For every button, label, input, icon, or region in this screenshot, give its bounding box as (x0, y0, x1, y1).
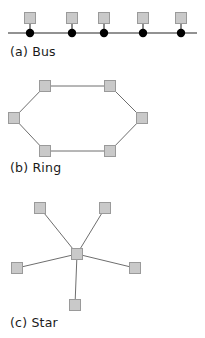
bus-node-1 (25, 13, 36, 24)
bus-node-2 (67, 13, 78, 24)
bus-node-3 (99, 13, 110, 24)
ring-topology-panel (9, 81, 148, 157)
caption-star: (c) Star (10, 315, 58, 330)
ring-node-right (137, 113, 148, 124)
bus-tap-3 (100, 29, 108, 37)
star-leaf-bottom (70, 300, 81, 311)
ring-node-bottom-left (40, 146, 51, 157)
star-spoke-5 (75, 254, 77, 305)
bus-tap-5 (177, 29, 185, 37)
star-spoke-4 (77, 254, 135, 268)
bus-tap-1 (26, 29, 34, 37)
star-spoke-3 (17, 254, 77, 268)
bus-tap-2 (68, 29, 76, 37)
star-leaf-upper-right (100, 203, 111, 214)
caption-bus: (a) Bus (10, 44, 56, 59)
caption-layer: (a) Bus(b) Ring(c) Star (10, 44, 61, 330)
bus-topology-panel (8, 13, 197, 38)
star-leaf-left (12, 263, 23, 274)
star-spoke-2 (77, 208, 105, 254)
star-spoke-1 (40, 208, 77, 254)
star-hub-node (72, 249, 83, 260)
network-topology-figure: (a) Bus(b) Ring(c) Star (0, 0, 205, 338)
star-topology-panel (12, 203, 141, 311)
bus-node-4 (138, 13, 149, 24)
star-leaf-right (130, 263, 141, 274)
star-leaf-upper-left (35, 203, 46, 214)
caption-ring: (b) Ring (10, 160, 61, 175)
topology-diagram-svg: (a) Bus(b) Ring(c) Star (0, 0, 205, 338)
ring-node-top-right (105, 81, 116, 92)
bus-tap-4 (139, 29, 147, 37)
ring-node-left (9, 113, 20, 124)
bus-node-5 (176, 13, 187, 24)
ring-node-top-left (40, 81, 51, 92)
ring-node-bottom-right (105, 146, 116, 157)
